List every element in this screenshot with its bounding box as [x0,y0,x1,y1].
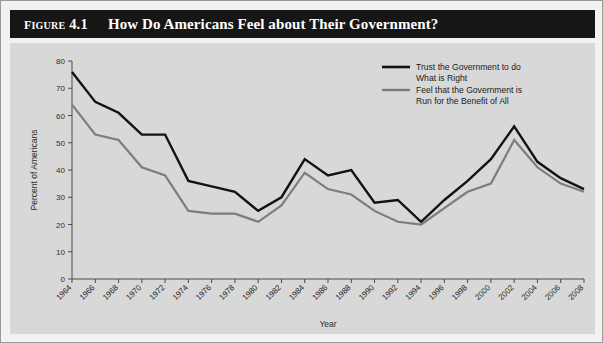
x-tick-label: 1974 [171,283,190,302]
y-tick-label: 0 [61,275,66,284]
y-tick-label: 70 [56,84,65,93]
x-tick-label: 1982 [264,283,283,302]
series-line-benefit [72,105,584,225]
x-tick-label: 1996 [427,283,446,302]
x-axis-title: Year [319,319,336,329]
legend-label-line1: Feel that the Government is [416,85,522,95]
y-tick-label: 10 [56,248,65,257]
line-chart: 01020304050607080 1964196619681970197219… [10,43,595,334]
x-tick-label: 1998 [450,283,469,302]
x-axis: 1964196619681970197219741976197819801982… [54,279,585,302]
y-tick-label: 50 [56,139,65,148]
x-tick-label: 1988 [334,283,353,302]
legend-label-line2: What is Right [416,73,468,83]
y-tick-label: 80 [56,57,65,66]
x-tick-label: 1994 [404,283,423,302]
figure-number-label: Figure 4.1 [24,14,88,34]
x-tick-label: 1966 [78,283,97,302]
legend-label-line2: Run for the Benefit of All [416,96,509,106]
x-tick-label: 1964 [54,283,73,302]
x-tick-label: 2002 [497,283,516,302]
x-tick-label: 2000 [473,283,492,302]
x-tick-label: 1978 [217,283,236,302]
x-tick-label: 2004 [520,283,539,302]
x-tick-label: 1992 [380,283,399,302]
y-axis: 01020304050607080 [56,57,72,284]
y-tick-label: 20 [56,221,65,230]
y-axis-title: Percent of Americans [29,130,39,211]
x-tick-label: 1990 [357,283,376,302]
x-tick-label: 1970 [124,283,143,302]
legend-label-line1: Trust the Government to do [416,62,521,72]
x-tick-label: 2008 [566,283,585,302]
x-tick-label: 1984 [287,283,306,302]
x-tick-label: 2006 [543,283,562,302]
x-tick-label: 1986 [310,283,329,302]
chart-legend: Trust the Government to doWhat is RightF… [382,62,522,106]
x-tick-label: 1980 [241,283,260,302]
x-tick-label: 1972 [148,283,167,302]
x-tick-label: 1968 [101,283,120,302]
figure-title-banner: Figure 4.1 How Do Americans Feel about T… [10,10,595,38]
y-tick-label: 60 [56,112,65,121]
figure-container: Figure 4.1 How Do Americans Feel about T… [0,0,603,343]
y-tick-label: 30 [56,193,65,202]
y-tick-label: 40 [56,166,65,175]
page-title: How Do Americans Feel about Their Govern… [108,16,439,33]
chart-plot-panel: 01020304050607080 1964196619681970197219… [10,43,595,334]
x-tick-label: 1976 [194,283,213,302]
